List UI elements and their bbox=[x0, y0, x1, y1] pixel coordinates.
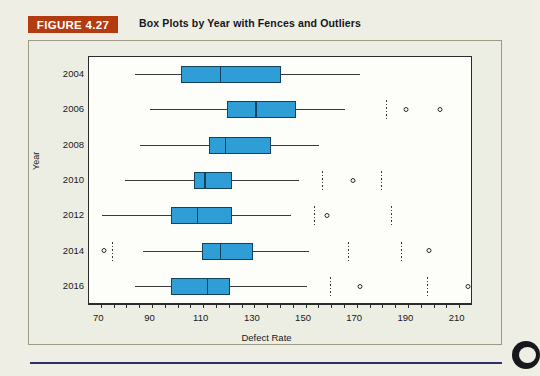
median-line bbox=[220, 243, 221, 260]
fence-marker bbox=[348, 242, 349, 261]
x-tick bbox=[382, 304, 383, 308]
fence-marker bbox=[314, 206, 315, 225]
boxplot-row-2010 bbox=[89, 164, 473, 198]
box-iqr bbox=[181, 66, 281, 83]
x-tick bbox=[357, 304, 358, 308]
boxplot-row-2014 bbox=[89, 235, 473, 269]
figure-title: Box Plots by Year with Fences and Outlie… bbox=[139, 17, 361, 29]
box-iqr bbox=[209, 137, 270, 154]
box-iqr bbox=[171, 207, 232, 224]
x-tick bbox=[190, 304, 191, 308]
plot-panel bbox=[88, 56, 472, 304]
fence-marker bbox=[427, 277, 428, 296]
boxplot-row-2004 bbox=[89, 58, 473, 92]
x-tick bbox=[242, 304, 243, 308]
boxplot-row-2016 bbox=[89, 270, 473, 304]
x-tick bbox=[408, 304, 409, 308]
figure-number-badge: FIGURE 4.27 bbox=[28, 16, 118, 33]
x-tick bbox=[165, 304, 166, 308]
x-tick bbox=[229, 304, 230, 308]
x-tick bbox=[434, 304, 435, 308]
x-tick bbox=[344, 304, 345, 308]
y-tick-label-2004: 2004 bbox=[38, 68, 84, 79]
median-line bbox=[225, 137, 226, 154]
x-tick-label-150: 150 bbox=[295, 312, 311, 323]
x-tick-label-170: 170 bbox=[346, 312, 362, 323]
x-tick bbox=[114, 304, 115, 308]
box-iqr bbox=[171, 278, 230, 295]
y-axis-tick-labels: 2004200620082010201220142016 bbox=[34, 56, 84, 304]
y-tick-label-2016: 2016 bbox=[38, 280, 84, 291]
median-line bbox=[207, 278, 208, 295]
x-tick bbox=[318, 304, 319, 308]
page-corner-glyph bbox=[512, 341, 540, 369]
x-tick-label-210: 210 bbox=[449, 312, 465, 323]
x-tick bbox=[293, 304, 294, 308]
x-tick bbox=[101, 304, 102, 308]
fence-marker bbox=[330, 277, 331, 296]
x-tick bbox=[280, 304, 281, 308]
x-tick bbox=[395, 304, 396, 308]
x-tick-label-190: 190 bbox=[398, 312, 414, 323]
x-tick bbox=[152, 304, 153, 308]
median-line bbox=[255, 101, 256, 118]
x-tick bbox=[370, 304, 371, 308]
y-tick-label-2012: 2012 bbox=[38, 209, 84, 220]
boxplot-row-2012 bbox=[89, 199, 473, 233]
outlier-point bbox=[437, 107, 442, 112]
outlier-point bbox=[325, 213, 330, 218]
fence-marker bbox=[381, 171, 382, 190]
x-axis-title: Defect Rate bbox=[0, 332, 533, 343]
x-tick bbox=[421, 304, 422, 308]
x-tick bbox=[254, 304, 255, 308]
y-tick-label-2014: 2014 bbox=[38, 245, 84, 256]
x-tick-label-130: 130 bbox=[244, 312, 260, 323]
median-line bbox=[204, 172, 205, 189]
median-line bbox=[220, 66, 221, 83]
boxplot-row-2008 bbox=[89, 129, 473, 163]
x-tick bbox=[459, 304, 460, 308]
x-tick-label-110: 110 bbox=[193, 312, 208, 323]
outlier-point bbox=[404, 107, 409, 112]
outlier-point bbox=[427, 248, 432, 253]
outlier-point bbox=[350, 178, 355, 183]
box-iqr bbox=[202, 243, 253, 260]
x-tick bbox=[126, 304, 127, 308]
x-tick-label-70: 70 bbox=[93, 312, 104, 323]
x-axis: 7090110130150170190210 bbox=[88, 304, 472, 305]
fence-marker bbox=[401, 242, 402, 261]
outlier-point bbox=[465, 284, 470, 289]
fence-marker bbox=[386, 100, 387, 119]
y-tick-label-2006: 2006 bbox=[38, 103, 84, 114]
fence-marker bbox=[112, 242, 113, 261]
x-tick bbox=[139, 304, 140, 308]
page-bottom-rule bbox=[30, 362, 502, 364]
x-tick bbox=[203, 304, 204, 308]
x-tick bbox=[178, 304, 179, 308]
fence-marker bbox=[322, 171, 323, 190]
x-tick bbox=[267, 304, 268, 308]
median-line bbox=[197, 207, 198, 224]
x-tick-label-90: 90 bbox=[144, 312, 155, 323]
outlier-point bbox=[102, 248, 107, 253]
x-tick bbox=[331, 304, 332, 308]
y-tick-label-2008: 2008 bbox=[38, 139, 84, 150]
y-tick-label-2010: 2010 bbox=[38, 174, 84, 185]
fence-marker bbox=[391, 206, 392, 225]
boxplot-row-2006 bbox=[89, 93, 473, 127]
box-iqr bbox=[227, 101, 296, 118]
x-tick bbox=[216, 304, 217, 308]
box-iqr bbox=[194, 172, 232, 189]
outlier-point bbox=[358, 284, 363, 289]
x-tick bbox=[446, 304, 447, 308]
x-tick bbox=[306, 304, 307, 308]
